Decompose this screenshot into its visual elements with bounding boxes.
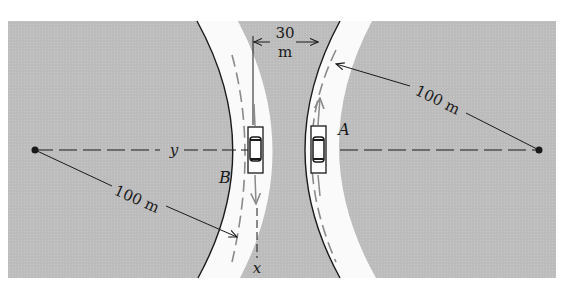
car-a: [311, 126, 326, 173]
axis-y-label: y: [169, 141, 179, 159]
car-b: [248, 127, 263, 173]
axis-x-label: x: [253, 259, 262, 277]
gap-unit-label: m: [278, 43, 292, 61]
car-b-velocity-arrow: [255, 175, 256, 204]
car-a-label: A: [336, 120, 350, 139]
two-cars-curved-roads-diagram: 30 m y 100 m 100 m x B A: [0, 0, 566, 290]
gap-value-label: 30: [275, 24, 294, 42]
car-b-label: B: [218, 168, 231, 187]
car-b-velocity-tail: [254, 104, 255, 126]
